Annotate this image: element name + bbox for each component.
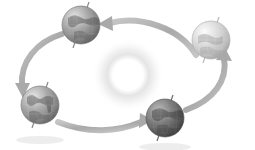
orbit-illustration (0, 0, 255, 150)
globe-top (62, 2, 100, 48)
globe-shadows (16, 136, 191, 150)
earth-orbit-diagram (0, 0, 255, 150)
arrow-left-arc (22, 34, 62, 86)
sun (92, 39, 164, 111)
arrow-bottom-arc (58, 122, 141, 130)
arrow-top-head (98, 16, 113, 31)
arrow-right-arc (186, 58, 225, 110)
